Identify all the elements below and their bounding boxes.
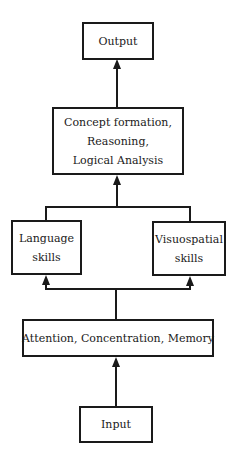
visuospatial-label-line-2: skills <box>175 249 204 268</box>
output-label: Output <box>98 32 137 51</box>
language-skills-box: Language skills <box>11 220 82 275</box>
concept-label-line-1: Concept formation, <box>64 113 172 132</box>
input-box: Input <box>79 406 153 443</box>
merge-line-horizontal <box>45 206 191 208</box>
connector-concept-to-output <box>116 66 118 108</box>
arrowhead-up-icon <box>113 175 121 185</box>
attention-label: Attention, Concentration, Memory <box>22 329 214 348</box>
attention-concentration-memory-box: Attention, Concentration, Memory <box>22 319 214 357</box>
visuospatial-skills-box: Visuospatial skills <box>152 221 226 276</box>
concept-reasoning-box: Concept formation, Reasoning, Logical An… <box>52 107 184 175</box>
language-label-line-1: Language <box>19 229 74 248</box>
merge-line-left-vertical <box>45 206 47 221</box>
concept-label-line-3: Logical Analysis <box>73 151 163 170</box>
arrowhead-up-icon <box>112 357 120 367</box>
split-line-horizontal <box>45 288 191 290</box>
connector-input-to-attention <box>115 364 117 407</box>
connector-junction-to-concept <box>116 182 118 208</box>
input-label: Input <box>101 415 131 434</box>
merge-line-right-vertical <box>189 206 191 221</box>
output-box: Output <box>82 22 154 60</box>
concept-label-line-2: Reasoning, <box>87 132 149 151</box>
arrowhead-up-icon <box>113 59 121 69</box>
visuospatial-label-line-1: Visuospatial <box>155 230 223 249</box>
language-label-line-2: skills <box>32 248 61 267</box>
connector-attention-to-split <box>115 288 117 320</box>
